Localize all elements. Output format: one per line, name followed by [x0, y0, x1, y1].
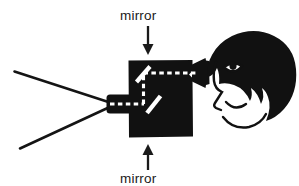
observer-chin-line: [223, 114, 266, 128]
field-of-view-lines: [15, 72, 114, 149]
periscope-diagram: mirror mirror: [0, 0, 299, 186]
top-mirror-annotation: mirror: [120, 8, 157, 55]
top-mirror-label: mirror: [120, 8, 157, 23]
field-of-view-lower-line: [20, 106, 113, 149]
bottom-mirror-label: mirror: [120, 171, 157, 186]
arrow-down-head-icon: [143, 44, 154, 55]
field-of-view-upper-line: [15, 72, 114, 104]
observer-head-profile: [208, 31, 297, 128]
diagram-canvas: mirror mirror: [0, 0, 299, 186]
bottom-mirror-annotation: mirror: [120, 144, 157, 186]
observer-pupil: [229, 62, 236, 70]
